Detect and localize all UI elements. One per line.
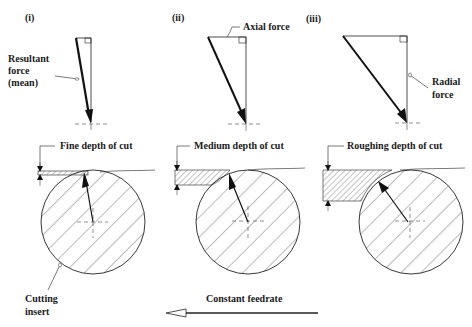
panel-label-iii: (iii) [306,13,321,25]
force-triangle-i [75,38,107,130]
cutting-force-diagram: (i) Resultant force (mean) Fine depth of… [0,0,472,327]
feed-arrow-head-icon [166,309,186,317]
panel-ii: (ii) Axial force Medium depth of cut [172,12,305,274]
panel-i: (i) Resultant force (mean) Fine depth of… [8,12,155,317]
force-triangle-ii [208,37,262,131]
cutting-insert-iii [359,170,463,274]
feed-label: Constant feedrate [206,293,283,304]
panel-label-i: (i) [25,12,34,24]
resultant-force-label-2: force [8,65,30,76]
depth-label-i: Fine depth of cut [60,140,133,151]
resultant-force-label-3: (mean) [8,77,38,89]
resultant-force-label-1: Resultant [8,53,50,64]
resultant-force-arrow-iii [343,36,402,114]
resultant-force-arrow-i [76,38,89,115]
panel-label-ii: (ii) [172,12,184,24]
insert-label-1: Cutting [25,293,58,304]
radial-force-label-2: force [432,89,454,100]
depth-label-iii: Roughing depth of cut [347,140,443,151]
depth-label-ii: Medium depth of cut [194,140,284,151]
insert-label-2: insert [25,306,50,317]
radial-force-label-1: Radial [432,76,461,87]
panel-iii: (iii) Radial force Roughing depth of cut [306,13,465,274]
force-triangle-iii [343,36,420,130]
resultant-force-arrow-ii [208,37,242,113]
axial-force-label: Axial force [243,21,290,32]
feed-direction: Constant feedrate [166,293,318,317]
